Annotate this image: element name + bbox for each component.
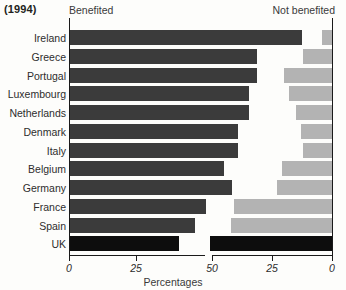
category-label: Italy — [0, 146, 66, 157]
category-label: Portugal — [0, 71, 66, 82]
category-label: UK — [0, 239, 66, 250]
bar-not-benefited — [303, 143, 332, 158]
bar-benefited — [69, 180, 232, 195]
category-label: Netherlands — [0, 108, 66, 119]
left-tick-25-label: 25 — [130, 262, 142, 274]
bar-not-benefited — [210, 236, 332, 251]
left-tick-0-label: 0 — [66, 262, 72, 274]
right-tick-25-label: 25 — [266, 262, 278, 274]
bar-not-benefited — [284, 68, 332, 83]
bar-not-benefited — [289, 86, 332, 101]
bar-benefited — [69, 161, 224, 176]
category-label: Greece — [0, 52, 66, 63]
bar-benefited — [69, 236, 179, 251]
bar-not-benefited — [301, 124, 332, 139]
left-tick-0-mark — [69, 256, 70, 261]
bar-not-benefited — [231, 218, 332, 233]
right-tick-50-label: 50 — [206, 262, 218, 274]
category-label: Ireland — [0, 33, 66, 44]
category-label: Luxembourg — [0, 89, 66, 100]
bar-benefited — [69, 105, 249, 120]
bar-not-benefited — [277, 180, 332, 195]
x-axis-title: Percentages — [0, 276, 346, 288]
bar-benefited — [69, 143, 238, 158]
right-tick-25-mark — [272, 256, 273, 261]
category-label: Denmark — [0, 127, 66, 138]
bar-not-benefited — [282, 161, 332, 176]
category-label: Germany — [0, 183, 66, 194]
category-label: Belgium — [0, 164, 66, 175]
right-vertical-axis — [332, 18, 333, 256]
bar-benefited — [69, 49, 257, 64]
category-label: France — [0, 202, 66, 213]
bar-not-benefited — [303, 49, 332, 64]
bar-benefited — [69, 86, 249, 101]
bar-benefited — [69, 30, 302, 45]
left-vertical-axis — [69, 18, 70, 256]
right-tick-50-mark — [212, 256, 213, 261]
bar-not-benefited — [296, 105, 332, 120]
chart-container: (1994) Benefited Not benefited IrelandGr… — [0, 0, 346, 290]
category-label: Spain — [0, 221, 66, 232]
left-tick-25-mark — [136, 256, 137, 261]
bar-benefited — [69, 68, 257, 83]
plot-area: IrelandGreecePortugalLuxembourgNetherlan… — [0, 0, 346, 290]
bar-benefited — [69, 124, 238, 139]
right-tick-0-label: 0 — [329, 262, 335, 274]
bar-not-benefited — [234, 199, 332, 214]
right-tick-0-mark — [332, 256, 333, 261]
bar-benefited — [69, 218, 195, 233]
bar-benefited — [69, 199, 206, 214]
